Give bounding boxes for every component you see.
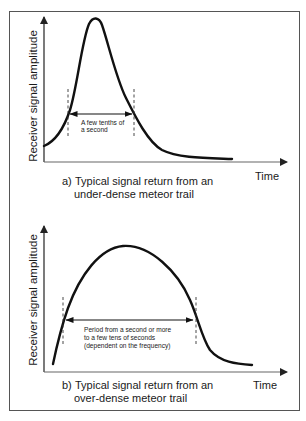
- panel-a-caption-prefix: a): [62, 175, 72, 187]
- panel-a-duration-note-line1: A few tenths of: [81, 119, 124, 126]
- panel-b-x-axis-label: Time: [253, 379, 277, 391]
- panel-b-duration-note-line3: (dependent on the frequency): [84, 342, 171, 350]
- meteor-signal-figure: Receiver signal amplitude A few tenths o…: [0, 0, 306, 421]
- panel-a-caption-line1: Typical signal return from an: [75, 175, 213, 187]
- panel-b-caption-line1: Typical signal return from an: [75, 379, 213, 391]
- panel-a-signal-curve: [44, 18, 232, 159]
- panel-b-duration-note-line1: Period from a second or more: [84, 326, 172, 333]
- panel-a-y-axis-label: Receiver signal amplitude: [27, 30, 39, 162]
- panel-a-duration-note-line2: a second: [81, 126, 108, 133]
- panel-b-caption-line2: over-dense meteor trail: [74, 392, 187, 404]
- panel-b-y-axis-label: Receiver signal amplitude: [27, 234, 39, 366]
- panel-b-duration-note-line2: to a few tens of seconds: [84, 334, 156, 341]
- panel-a-x-axis-label: Time: [255, 170, 279, 182]
- figure-canvas: Receiver signal amplitude A few tenths o…: [0, 0, 306, 421]
- panel-a-caption-line2: under-dense meteor trail: [74, 188, 194, 200]
- panel-b-caption-prefix: b): [62, 379, 72, 391]
- panel-a: Receiver signal amplitude A few tenths o…: [27, 17, 287, 200]
- panel-b: Receiver signal amplitude Period from a …: [27, 226, 287, 404]
